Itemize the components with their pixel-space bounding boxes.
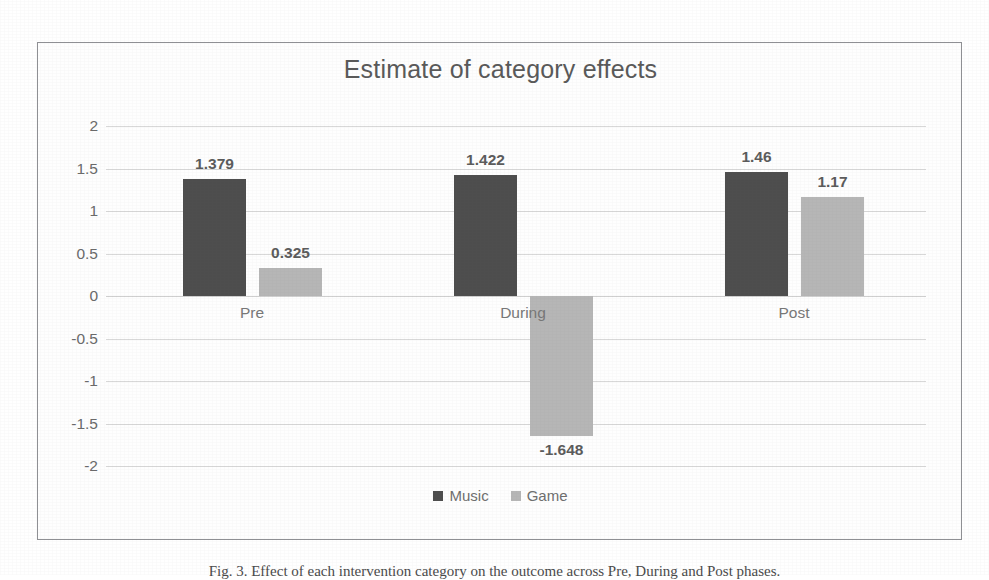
y-axis-label-neg-1-5: -1.5 (46, 415, 98, 433)
legend-label-game: Game (527, 487, 568, 504)
gridline-neg-0-5 (106, 339, 926, 340)
bar-value-music-pre: 1.379 (195, 155, 234, 173)
chart-container: Estimate of category effects 2 1.5 1 0.5… (37, 42, 962, 540)
y-axis-label-0: 0 (46, 287, 98, 305)
gridline-neg-2 (106, 466, 926, 467)
gridline-2 (106, 126, 926, 127)
bar-value-game-pre: 0.325 (271, 244, 310, 262)
legend-label-music: Music (449, 487, 488, 504)
bar-music-during[interactable] (454, 175, 517, 296)
y-axis-label-neg-0-5: -0.5 (46, 330, 98, 348)
y-axis-label-neg-2: -2 (46, 457, 98, 475)
chart-title: Estimate of category effects (38, 55, 963, 84)
chart-legend: Music Game (38, 487, 963, 504)
bar-value-game-post: 1.17 (817, 173, 847, 191)
x-axis-label-pre: Pre (240, 304, 264, 322)
bar-value-game-during: -1.648 (540, 441, 584, 459)
legend-item-music[interactable]: Music (433, 487, 488, 504)
y-axis-label-2: 2 (46, 117, 98, 135)
gridline-neg-1-5 (106, 424, 926, 425)
plot-area: 2 1.5 1 0.5 0 -0.5 -1 -1.5 -2 1.379 0.32… (106, 126, 926, 466)
gridline-0 (106, 296, 926, 297)
bar-game-pre[interactable] (259, 268, 322, 296)
bar-music-post[interactable] (725, 172, 788, 296)
y-axis-label-1-5: 1.5 (46, 160, 98, 178)
legend-swatch-game-icon (511, 491, 521, 501)
bar-game-post[interactable] (801, 197, 864, 297)
bar-value-music-during: 1.422 (466, 151, 505, 169)
y-axis-label-0-5: 0.5 (46, 245, 98, 263)
legend-item-game[interactable]: Game (511, 487, 568, 504)
legend-swatch-music-icon (433, 491, 443, 501)
y-axis-label-neg-1: -1 (46, 372, 98, 390)
gridline-neg-1 (106, 381, 926, 382)
x-axis-label-post: Post (778, 304, 809, 322)
figure-caption: Fig. 3. Effect of each intervention cate… (0, 563, 989, 580)
x-axis-label-during: During (500, 304, 546, 322)
bar-music-pre[interactable] (183, 179, 246, 296)
y-axis-label-1: 1 (46, 202, 98, 220)
bar-value-music-post: 1.46 (741, 148, 771, 166)
